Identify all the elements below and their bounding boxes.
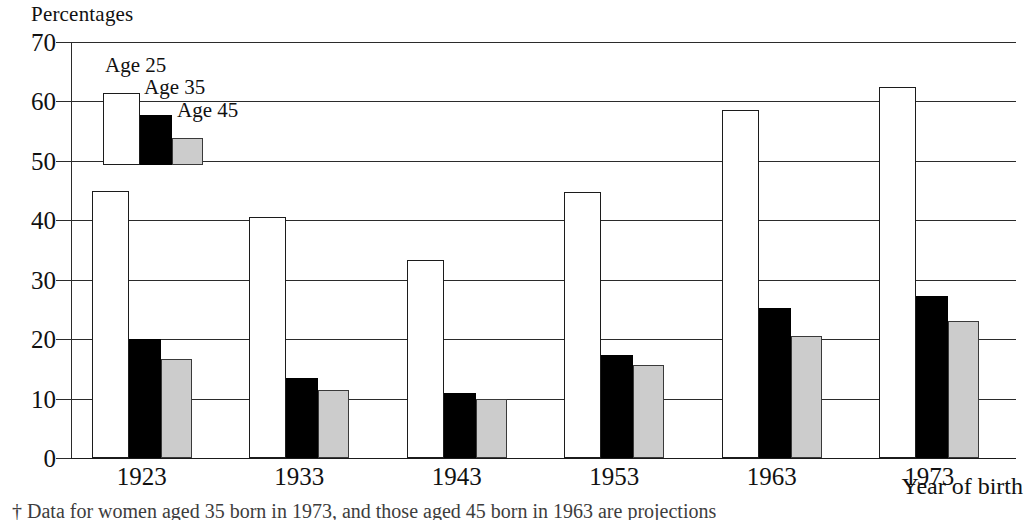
legend-label-age-25: Age 25 [105, 55, 166, 76]
y-tick-label: 20 [0, 327, 56, 352]
bar-age-25-1923 [92, 191, 129, 458]
y-tick-label: 60 [0, 89, 56, 114]
y-tick-label: 40 [0, 208, 56, 233]
y-tick-mark [56, 101, 71, 102]
y-tick-mark [56, 339, 71, 340]
bar-group [564, 42, 664, 458]
x-tick-label: 1923 [117, 464, 167, 489]
bar-age-45-1953 [633, 365, 664, 458]
x-tick-label: 1943 [432, 464, 482, 489]
y-tick-mark [56, 399, 71, 400]
bar-age-35-1973 [916, 296, 948, 458]
bar-group [722, 42, 822, 458]
bar-age-45-1923 [161, 359, 192, 458]
legend-swatch-age-45 [172, 138, 203, 165]
y-tick-mark [56, 42, 71, 43]
bar-age-25-1973 [879, 87, 916, 458]
legend-swatch-age-25 [103, 93, 140, 165]
bar-age-25-1943 [407, 260, 444, 458]
bar-chart: Percentages 706050403020100 192319331943… [0, 0, 1035, 520]
chart-footnote: † Data for women aged 35 born in 1973, a… [12, 500, 716, 520]
bar-age-25-1933 [249, 217, 286, 458]
y-tick-mark [56, 280, 71, 281]
bar-age-35-1943 [444, 393, 476, 458]
x-tick-label: 1953 [589, 464, 639, 489]
y-tick-mark [56, 458, 71, 459]
chart-legend: Age 25 Age 35 Age 45 [103, 55, 433, 165]
legend-swatch-age-35 [140, 115, 172, 165]
bar-age-45-1963 [791, 336, 822, 458]
bar-age-35-1953 [601, 355, 633, 458]
legend-label-age-35: Age 35 [144, 77, 205, 98]
y-tick-label: 10 [0, 386, 56, 411]
bar-age-25-1953 [564, 192, 601, 458]
x-axis-title: Year of birth [901, 473, 1023, 500]
legend-label-age-45: Age 45 [177, 100, 238, 121]
y-tick-label: 50 [0, 148, 56, 173]
bar-age-45-1933 [318, 390, 349, 458]
bar-age-35-1963 [759, 308, 791, 458]
y-axis-title: Percentages [31, 2, 133, 27]
bar-group [879, 42, 979, 458]
gridline [71, 458, 1016, 459]
x-tick-label: 1933 [274, 464, 324, 489]
y-tick-label: 0 [0, 446, 56, 471]
bar-age-45-1943 [476, 399, 507, 458]
x-tick-label: 1963 [747, 464, 797, 489]
bar-age-45-1973 [948, 321, 979, 458]
y-tick-label: 70 [0, 30, 56, 55]
y-tick-label: 30 [0, 267, 56, 292]
y-tick-mark [56, 161, 71, 162]
bar-age-35-1923 [129, 339, 161, 458]
bar-age-35-1933 [286, 378, 318, 458]
bar-age-25-1963 [722, 110, 759, 458]
y-tick-mark [56, 220, 71, 221]
